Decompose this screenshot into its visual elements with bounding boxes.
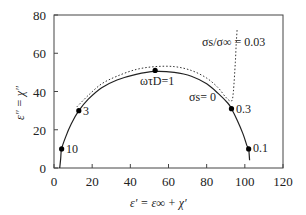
marker-dot (76, 108, 81, 113)
annotation-solid-sigma: σs= 0 (189, 90, 216, 104)
x-tick-label: 40 (124, 174, 137, 189)
x-tick-label: 20 (86, 174, 99, 189)
marker-dot (153, 68, 158, 73)
marker-label-10: 10 (66, 142, 78, 156)
marker-dot (229, 106, 234, 111)
marker-dot (246, 146, 251, 151)
annotation-dotted-sigma: σs/σ∞ = 0.03 (202, 35, 265, 49)
y-tick-label: 20 (33, 123, 46, 138)
x-tick-label: 120 (273, 174, 293, 189)
marker-label-1: ωτD=1 (140, 74, 174, 88)
x-tick-label: 0 (51, 174, 58, 189)
y-tick-label: 0 (40, 161, 47, 176)
x-tick-label: 60 (162, 174, 175, 189)
x-tick-label: 100 (235, 174, 255, 189)
y-tick-label: 60 (33, 46, 46, 61)
marker-label-3: 3 (83, 104, 89, 118)
y-axis-label: ε″ = χ″ (13, 85, 27, 120)
y-tick-label: 80 (33, 8, 46, 23)
x-axis-label: ε′ = ε∞ + χ′ (130, 196, 187, 210)
x-tick-label: 80 (200, 174, 213, 189)
marker-label-01: 0.1 (253, 141, 268, 155)
marker-label-03: 0.3 (236, 102, 251, 116)
marker-dot (59, 146, 64, 151)
y-tick-label: 40 (33, 85, 46, 100)
cole-cole-plot: 020406080100120 020406080 σs/σ∞ = 0.03 σ… (0, 0, 306, 215)
